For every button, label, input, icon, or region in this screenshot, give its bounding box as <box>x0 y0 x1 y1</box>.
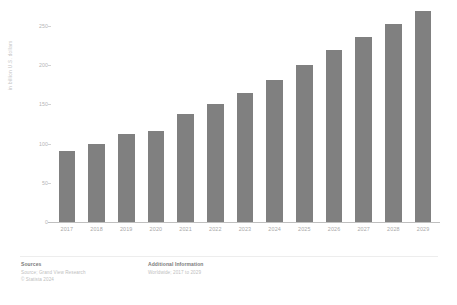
y-axis-tick-labels: 250 200 150 100 50 0 <box>22 26 48 222</box>
x-tick-slot-2029: 2029 <box>408 226 438 242</box>
x-tick-slot-2028: 2028 <box>379 226 409 242</box>
x-tick-label-2027: 2027 <box>357 226 370 232</box>
x-tick-label-2028: 2028 <box>387 226 400 232</box>
additional-information-heading: Additional Information <box>148 261 204 267</box>
bar-slot-2025 <box>290 26 320 222</box>
bar-2026[interactable] <box>326 50 343 222</box>
y-tick-mark-250 <box>48 26 51 27</box>
x-tick-label-2020: 2020 <box>150 226 163 232</box>
bar-slot-2028 <box>379 26 409 222</box>
bar-2019[interactable] <box>118 134 135 222</box>
x-tick-slot-2023: 2023 <box>230 226 260 242</box>
bar-slot-2027 <box>349 26 379 222</box>
y-tick-mark-50 <box>48 183 51 184</box>
chart-footer: Sources Source; Grand View Research © St… <box>0 256 457 296</box>
x-tick-slot-2020: 2020 <box>141 226 171 242</box>
x-tick-label-2023: 2023 <box>239 226 252 232</box>
bar-2023[interactable] <box>237 93 254 222</box>
y-tick-label-200: 200 <box>39 62 48 68</box>
x-tick-slot-2018: 2018 <box>82 226 112 242</box>
x-tick-label-2017: 2017 <box>61 226 74 232</box>
y-axis-title: in billion U.S. dollars <box>8 40 13 90</box>
bar-2029[interactable] <box>415 11 432 222</box>
sources-heading: Sources <box>21 261 86 267</box>
bar-slot-2019 <box>111 26 141 222</box>
bar-slot-2018 <box>82 26 112 222</box>
bar-2025[interactable] <box>296 65 313 222</box>
bar-slot-2024 <box>260 26 290 222</box>
chart-card: in billion U.S. dollars 250 200 150 100 … <box>0 0 457 305</box>
x-axis-line <box>48 222 440 223</box>
additional-information-line-1: Worldwide; 2017 to 2029 <box>148 269 204 276</box>
bars-layer <box>52 26 438 222</box>
x-tick-slot-2026: 2026 <box>319 226 349 242</box>
x-tick-slot-2027: 2027 <box>349 226 379 242</box>
x-tick-label-2025: 2025 <box>298 226 311 232</box>
x-tick-slot-2019: 2019 <box>111 226 141 242</box>
bar-2021[interactable] <box>177 114 194 222</box>
x-tick-slot-2022: 2022 <box>200 226 230 242</box>
y-tick-label-250: 250 <box>39 23 48 29</box>
sources-line-1[interactable]: Source; Grand View Research <box>21 269 86 276</box>
bar-slot-2021 <box>171 26 201 222</box>
x-tick-slot-2024: 2024 <box>260 226 290 242</box>
bar-2018[interactable] <box>88 144 105 222</box>
x-tick-slot-2021: 2021 <box>171 226 201 242</box>
y-tick-label-150: 150 <box>39 101 48 107</box>
bar-2020[interactable] <box>148 131 165 222</box>
bar-2028[interactable] <box>385 24 402 222</box>
bar-2027[interactable] <box>355 37 372 222</box>
x-tick-slot-2025: 2025 <box>290 226 320 242</box>
bar-slot-2023 <box>230 26 260 222</box>
y-tick-label-100: 100 <box>39 141 48 147</box>
sources-line-2: © Statista 2024 <box>21 276 86 283</box>
bar-slot-2022 <box>200 26 230 222</box>
x-tick-label-2022: 2022 <box>209 226 222 232</box>
x-tick-label-2019: 2019 <box>120 226 133 232</box>
bar-slot-2026 <box>319 26 349 222</box>
x-axis-tick-labels: 2017 2018 2019 2020 2021 2022 2023 2024 … <box>52 226 438 242</box>
y-tick-mark-150 <box>48 104 51 105</box>
sources-column: Sources Source; Grand View Research © St… <box>21 261 86 283</box>
footer-divider <box>20 256 438 257</box>
x-tick-label-2021: 2021 <box>179 226 192 232</box>
x-tick-label-2018: 2018 <box>90 226 103 232</box>
bar-2022[interactable] <box>207 104 224 222</box>
bar-slot-2017 <box>52 26 82 222</box>
additional-information-column: Additional Information Worldwide; 2017 t… <box>148 261 204 276</box>
y-tick-mark-200 <box>48 65 51 66</box>
y-tick-mark-100 <box>48 144 51 145</box>
x-tick-label-2029: 2029 <box>417 226 430 232</box>
bar-2017[interactable] <box>59 151 76 222</box>
x-tick-label-2026: 2026 <box>328 226 341 232</box>
bar-slot-2029 <box>408 26 438 222</box>
x-tick-slot-2017: 2017 <box>52 226 82 242</box>
bar-slot-2020 <box>141 26 171 222</box>
plot-area <box>52 26 438 222</box>
bar-2024[interactable] <box>266 80 283 222</box>
x-tick-label-2024: 2024 <box>268 226 281 232</box>
